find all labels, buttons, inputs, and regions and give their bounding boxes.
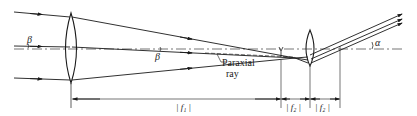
- paraxial-label-line1: Paraxial: [222, 58, 255, 68]
- beta-label-mid: β: [155, 52, 160, 62]
- objective-lens: [66, 13, 77, 83]
- paraxial-label-line2: ray: [226, 69, 239, 79]
- f2-label-b: | f₂ |: [315, 103, 330, 112]
- f1-label: | f₁ |: [176, 103, 191, 112]
- alpha-label: α: [375, 38, 380, 48]
- f2-label-a: | f₂ |: [286, 103, 301, 112]
- optical-diagram: [0, 0, 417, 116]
- alpha-angle-arc: [372, 42, 373, 49]
- beta-label-left: β: [27, 35, 32, 45]
- outgoing-ray-3: [311, 23, 402, 63]
- eyepiece-lens: [306, 30, 314, 66]
- outgoing-ray-2: [311, 19, 402, 59]
